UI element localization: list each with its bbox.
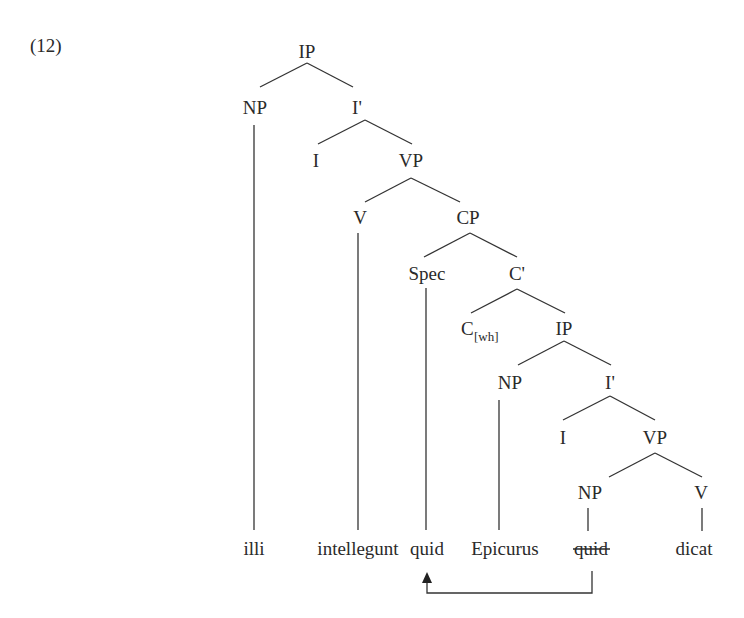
node-ibar-low: I' — [605, 372, 615, 393]
edge — [518, 341, 564, 365]
word-intellegunt: intellegunt — [317, 538, 399, 559]
edge — [411, 178, 460, 202]
node-c-wh: C — [461, 318, 474, 339]
node-v-low: V — [694, 482, 708, 503]
node-np-object: NP — [578, 482, 602, 503]
node-i-top: I — [313, 150, 319, 171]
movement-path — [427, 571, 592, 593]
word-quid: quid — [410, 538, 444, 559]
node-cbar: C' — [509, 263, 525, 284]
edge — [365, 120, 412, 144]
edge — [318, 120, 365, 144]
node-v-top: V — [353, 207, 367, 228]
edge — [471, 289, 517, 313]
edge — [610, 396, 655, 420]
word-dicat: dicat — [676, 538, 714, 559]
edge — [260, 63, 307, 87]
edge — [655, 453, 702, 477]
edge — [517, 289, 565, 313]
arrow-up-icon — [422, 572, 432, 583]
edge — [564, 341, 611, 365]
node-np-subject: NP — [243, 97, 267, 118]
example-number: (12) — [30, 35, 62, 57]
node-i-low: I — [560, 427, 566, 448]
edge — [307, 63, 353, 87]
edge — [365, 178, 411, 202]
node-cp: CP — [456, 207, 479, 228]
edge — [609, 453, 655, 477]
node-spec: Spec — [409, 263, 446, 284]
node-ibar-top: I' — [352, 97, 362, 118]
node-ip-low: IP — [556, 318, 573, 339]
syntax-tree-diagram: (12) IP NP I' I VP V CP Spec C' C [wh] I… — [0, 0, 744, 618]
word-epicurus: Epicurus — [471, 538, 539, 559]
node-c-wh-feature: [wh] — [474, 329, 499, 344]
node-vp-top: VP — [399, 150, 423, 171]
node-ip-top: IP — [299, 41, 316, 62]
node-np-low: NP — [498, 372, 522, 393]
edge — [424, 233, 470, 257]
edge — [470, 233, 517, 257]
edge — [563, 396, 610, 420]
word-illi: illi — [243, 538, 264, 559]
node-vp-low: VP — [643, 427, 667, 448]
